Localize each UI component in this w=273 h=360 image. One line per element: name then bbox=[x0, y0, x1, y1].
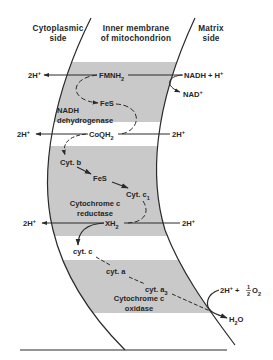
band-nadh-dehydrogenase bbox=[0, 62, 273, 122]
product-water: H2O bbox=[229, 315, 244, 326]
complex-label-oxidase-2: oxidase bbox=[125, 304, 153, 313]
substrate-nadh: NADH + H+ bbox=[184, 70, 223, 80]
header-matrix-side: side bbox=[202, 34, 219, 43]
carrier-cyta: cyt. a bbox=[106, 267, 126, 276]
label-2h-out-2: 2H+ bbox=[17, 129, 30, 139]
carrier-cytc: cyt. c bbox=[73, 247, 92, 256]
header-of-mitochondrion: of mitochondrion bbox=[101, 34, 172, 43]
label-2h-out-3: 2H+ bbox=[23, 218, 36, 228]
header-cytoplasmic-side: side bbox=[49, 34, 66, 43]
complex-label-reductase-2: reductase bbox=[77, 209, 113, 218]
substrate-o2: 2H++ bbox=[220, 285, 240, 295]
electron-transport-diagram: Cytoplasmic side Inner membrane of mitoc… bbox=[0, 0, 273, 360]
fraction-half-num: 1 bbox=[247, 284, 250, 290]
complex-label-nadh-2: dehydrogenase bbox=[57, 116, 113, 125]
label-2h-out-1: 2H+ bbox=[28, 70, 41, 80]
fraction-half-den: 2 bbox=[247, 291, 250, 297]
header-matrix: Matrix bbox=[198, 24, 224, 33]
header-inner-membrane: Inner membrane bbox=[103, 24, 170, 33]
carrier-cytb: Cyt. b bbox=[60, 158, 81, 167]
complex-bands bbox=[0, 62, 273, 313]
header-cytoplasmic: Cytoplasmic bbox=[33, 24, 84, 33]
complex-label-reductase-1: Cytochrome c bbox=[70, 199, 121, 208]
label-2h-in-3: 2H+ bbox=[182, 218, 195, 228]
carrier-fes-1: FeS bbox=[100, 99, 114, 108]
carrier-coqh2: CoQH2 bbox=[89, 130, 114, 141]
carrier-fes-2: FeS bbox=[93, 174, 107, 183]
complex-label-oxidase-1: Cytochrome c bbox=[114, 294, 165, 303]
label-2h-in-2: 2H+ bbox=[172, 129, 185, 139]
product-nad: NAD+ bbox=[183, 89, 203, 99]
complex-label-nadh-1: NADH bbox=[57, 106, 79, 115]
substrate-o2-molecule: O2 bbox=[252, 286, 261, 297]
